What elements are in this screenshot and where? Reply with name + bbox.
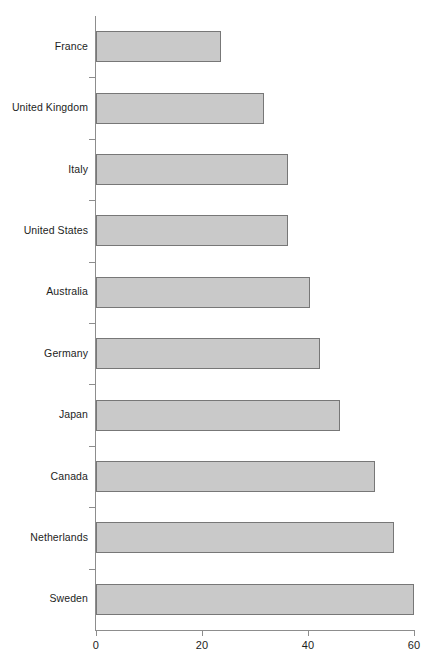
x-axis-tick xyxy=(202,631,203,636)
x-axis-tick-label: 20 xyxy=(196,639,209,651)
x-axis-tick xyxy=(96,631,97,636)
x-axis-tick-label: 40 xyxy=(302,639,315,651)
x-axis-tick xyxy=(308,631,309,636)
bar xyxy=(96,400,340,431)
y-axis-tick xyxy=(89,262,95,263)
category-label: Germany xyxy=(44,347,88,359)
y-axis-tick xyxy=(89,446,95,447)
category-label: United States xyxy=(24,224,88,236)
x-axis-line xyxy=(96,630,415,631)
y-axis-tick xyxy=(89,323,95,324)
y-axis-tick xyxy=(89,139,95,140)
category-label: Japan xyxy=(59,408,88,420)
y-axis-tick xyxy=(89,77,95,78)
category-label: Australia xyxy=(46,285,88,297)
y-axis-tick xyxy=(89,384,95,385)
category-label: Netherlands xyxy=(30,531,88,543)
x-axis-tick-label: 60 xyxy=(408,639,421,651)
y-axis-tick xyxy=(89,569,95,570)
bar xyxy=(96,93,264,124)
category-label: United Kingdom xyxy=(12,101,88,113)
category-label: France xyxy=(55,40,88,52)
bar xyxy=(96,461,375,492)
category-label: Italy xyxy=(68,163,88,175)
y-axis-tick xyxy=(89,507,95,508)
bar xyxy=(96,522,394,553)
bar xyxy=(96,338,320,369)
x-axis-tick-label: 0 xyxy=(93,639,99,651)
bar xyxy=(96,277,310,308)
bar-chart: 0204060 FranceUnited KingdomItalyUnited … xyxy=(0,0,438,667)
category-label: Canada xyxy=(51,470,88,482)
category-label: Sweden xyxy=(49,592,88,604)
bar xyxy=(96,215,288,246)
bar xyxy=(96,584,414,615)
bar xyxy=(96,31,221,62)
x-axis-tick xyxy=(414,631,415,636)
y-axis-tick xyxy=(89,200,95,201)
bar xyxy=(96,154,288,185)
